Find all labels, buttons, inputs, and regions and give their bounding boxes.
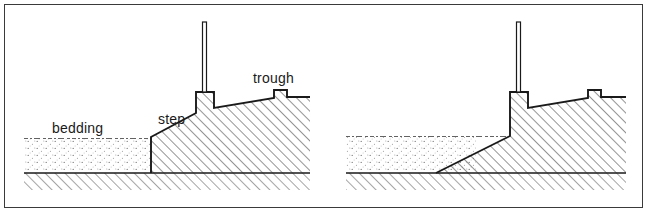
label-trough: trough xyxy=(253,70,294,86)
vertical-post xyxy=(517,22,521,92)
vertical-post xyxy=(203,22,207,92)
ramp-detail-drawing xyxy=(324,0,648,214)
panel-step-detail: bedding step trough xyxy=(0,0,324,214)
embankment-cross-section-figure: bedding step trough xyxy=(0,0,648,214)
label-bedding: bedding xyxy=(52,120,103,136)
bedding-layer xyxy=(24,139,151,171)
step-detail-drawing xyxy=(0,0,324,214)
panel-ramp-detail: ramp xyxy=(324,0,648,214)
label-step: step xyxy=(158,111,185,127)
